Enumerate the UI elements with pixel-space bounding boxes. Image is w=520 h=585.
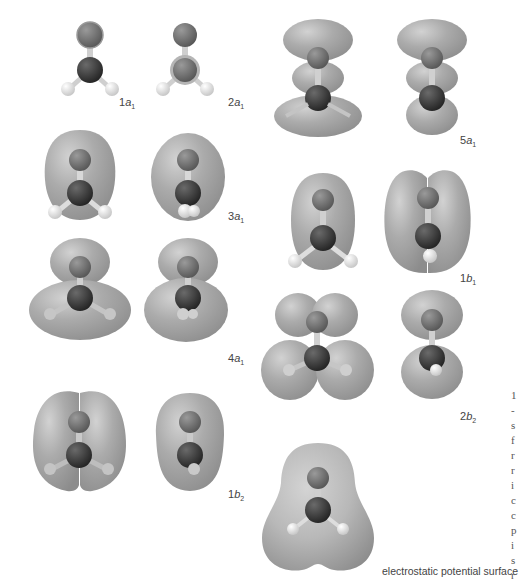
orbital-1b1-right: [380, 168, 475, 278]
orbital-1b2-right: [150, 385, 230, 500]
orbital-label-2b2: 2b2: [460, 410, 476, 424]
orbital-label-5a1: 5a1: [460, 134, 476, 148]
orbital-3a1-right: [148, 125, 228, 225]
orbital-1b2-left: [22, 385, 137, 500]
electrostatic-potential-surface: [257, 438, 379, 578]
orbital-1a1-molecule: [60, 20, 120, 100]
orbital-label-3a1: 3a1: [228, 210, 244, 224]
orbital-label-1b1: 1b1: [460, 272, 476, 286]
orbital-label-1b2: 1b2: [228, 488, 244, 502]
orbital-label-2a1: 2a1: [228, 96, 244, 110]
orbital-2a1-molecule: [155, 20, 215, 100]
orbital-5a1-right: [392, 18, 472, 138]
orbital-2b2-right: [392, 290, 472, 405]
orbital-4a1-right: [143, 232, 233, 342]
orbital-5a1-left: [272, 18, 367, 138]
orbital-1b1-left: [283, 170, 363, 275]
esp-caption: electrostatic potential surface: [382, 565, 518, 577]
orbital-2b2-left: [260, 290, 375, 405]
orbital-label-1a1: 1a1: [119, 96, 135, 110]
orbital-4a1-left: [25, 232, 135, 342]
orbital-3a1-left: [40, 125, 120, 225]
orbital-label-4a1: 4a1: [228, 352, 244, 366]
cropped-caption-column: 1 - s f r r i c c p i s r: [511, 388, 520, 583]
